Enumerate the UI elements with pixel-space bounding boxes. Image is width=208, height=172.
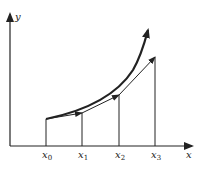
tick-label-x0: x0 [42,150,52,162]
x-axis-label: x [186,150,192,160]
y-axis-label: y [15,12,21,22]
tick-label-x2: x2 [115,150,125,162]
diagram-canvas [0,0,208,172]
tick-label-x3: x3 [151,150,161,162]
euler-step-2 [82,95,119,113]
tick-label-x1: x1 [78,150,88,162]
